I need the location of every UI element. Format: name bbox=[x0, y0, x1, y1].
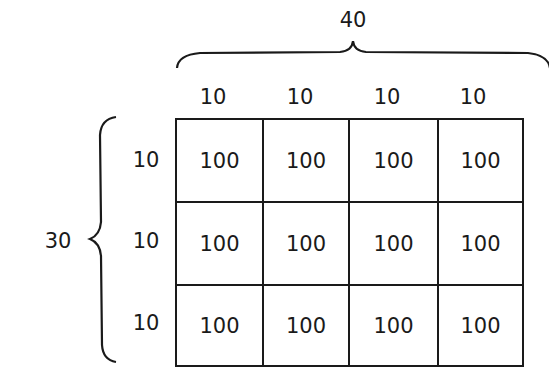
grid-cell: 100 bbox=[350, 120, 439, 203]
grid-cell: 100 bbox=[350, 286, 439, 365]
grid-cell: 100 bbox=[264, 203, 350, 286]
row-label: 10 bbox=[126, 150, 166, 171]
grid-cell: 100 bbox=[350, 203, 439, 286]
total-height-label: 30 bbox=[38, 231, 78, 252]
grid-cell: 100 bbox=[177, 203, 264, 286]
row-label: 10 bbox=[126, 231, 166, 252]
column-label: 10 bbox=[280, 87, 320, 108]
grid-cell: 100 bbox=[264, 120, 350, 203]
grid-cell: 100 bbox=[177, 120, 264, 203]
grid-cell: 100 bbox=[439, 203, 522, 286]
area-grid: 100 100 100 100 100 100 100 100 100 100 … bbox=[175, 118, 524, 367]
grid-cell: 100 bbox=[439, 286, 522, 365]
grid-cell: 100 bbox=[439, 120, 522, 203]
grid-cell: 100 bbox=[177, 286, 264, 365]
column-label: 10 bbox=[453, 87, 493, 108]
grid-cell: 100 bbox=[264, 286, 350, 365]
column-label: 10 bbox=[193, 87, 233, 108]
row-label: 10 bbox=[126, 313, 166, 334]
column-label: 10 bbox=[367, 87, 407, 108]
